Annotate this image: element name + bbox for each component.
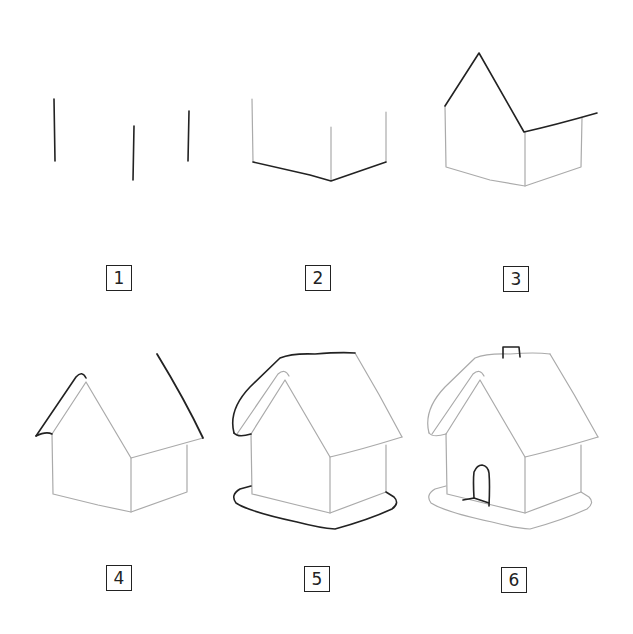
step-number: 1 [114,268,125,288]
step-3-drawing [445,53,597,186]
step-4-drawing [36,354,203,512]
step-label-5: 5 [304,566,330,592]
step-6-drawing [428,347,598,529]
step-label-4: 4 [106,565,132,591]
drawing-canvas [0,0,633,634]
step-5-drawing [233,353,402,529]
step-label-1: 1 [106,265,132,291]
step-number: 3 [511,269,522,289]
step-number: 5 [312,569,323,589]
step-label-6: 6 [501,567,527,593]
step-1-drawing [54,99,189,180]
step-2-drawing [252,99,386,181]
step-label-2: 2 [305,265,331,291]
step-number: 4 [114,568,125,588]
step-number: 2 [313,268,324,288]
chimney-icon [503,347,520,358]
step-number: 6 [509,570,520,590]
step-label-3: 3 [503,266,529,292]
